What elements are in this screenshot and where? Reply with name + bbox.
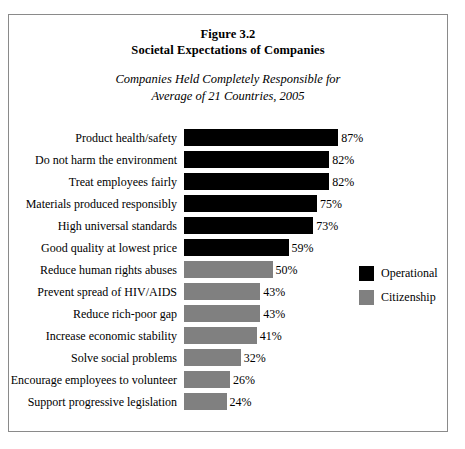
bar-value-label: 82% (329, 149, 354, 171)
bar-row: Do not harm the environment82% (9, 149, 447, 171)
bar-operational (184, 173, 329, 190)
bar-citizenship (184, 283, 260, 300)
bar-track: 41% (184, 325, 447, 347)
figure-title-block: Figure 3.2 Societal Expectations of Comp… (9, 26, 447, 58)
bar-value-label: 73% (313, 215, 338, 237)
bar-row: Solve social problems32% (9, 347, 447, 369)
bar-category-label: Do not harm the environment (9, 149, 177, 171)
bar-operational (184, 129, 338, 146)
figure-frame: Figure 3.2 Societal Expectations of Comp… (8, 14, 448, 432)
bar-value-label: 32% (241, 347, 266, 369)
legend-label: Operational (381, 266, 438, 281)
legend-item-citizenship: Citizenship (359, 285, 449, 309)
bar-operational (184, 151, 329, 168)
bar-operational (184, 217, 313, 234)
bar-row: Support progressive legislation24% (9, 391, 447, 413)
bar-citizenship (184, 327, 257, 344)
bar-citizenship (184, 393, 227, 410)
bar-value-label: 82% (329, 171, 354, 193)
figure-subtitle-block: Companies Held Completely Responsible fo… (9, 71, 447, 104)
bar-value-label: 24% (227, 391, 252, 413)
bar-citizenship (184, 305, 260, 322)
bar-category-label: High universal standards (9, 215, 177, 237)
bar-track: 26% (184, 369, 447, 391)
legend-swatch-citizenship (359, 290, 374, 305)
bar-track: 32% (184, 347, 447, 369)
bar-row: Increase economic stability41% (9, 325, 447, 347)
bar-category-label: Increase economic stability (9, 325, 177, 347)
bar-category-label: Support progressive legislation (9, 391, 177, 413)
legend-item-operational: Operational (359, 261, 449, 285)
bar-category-label: Treat employees fairly (9, 171, 177, 193)
bar-category-label: Solve social problems (9, 347, 177, 369)
bar-citizenship (184, 371, 230, 388)
bar-track: 75% (184, 193, 447, 215)
bar-value-label: 26% (230, 369, 255, 391)
bar-track: 82% (184, 171, 447, 193)
figure-title: Societal Expectations of Companies (9, 42, 447, 58)
bar-track: 24% (184, 391, 447, 413)
bar-track: 82% (184, 149, 447, 171)
bar-operational (184, 195, 317, 212)
bar-value-label: 59% (289, 237, 314, 259)
bar-citizenship (184, 349, 241, 366)
bar-category-label: Materials produced responsibly (9, 193, 177, 215)
bar-value-label: 87% (338, 127, 363, 149)
bar-track: 87% (184, 127, 447, 149)
bar-category-label: Reduce rich-poor gap (9, 303, 177, 325)
bar-row: Encourage employees to volunteer26% (9, 369, 447, 391)
bar-category-label: Product health/safety (9, 127, 177, 149)
legend-label: Citizenship (381, 290, 436, 305)
bar-value-label: 43% (260, 303, 285, 325)
bar-citizenship (184, 261, 273, 278)
legend-swatch-operational (359, 266, 374, 281)
figure-number: Figure 3.2 (9, 26, 447, 42)
bar-row: High universal standards73% (9, 215, 447, 237)
bar-value-label: 43% (260, 281, 285, 303)
bar-value-label: 50% (273, 259, 298, 281)
bar-track: 73% (184, 215, 447, 237)
bar-category-label: Encourage employees to volunteer (9, 369, 177, 391)
bar-row: Product health/safety87% (9, 127, 447, 149)
bar-row: Good quality at lowest price59% (9, 237, 447, 259)
bar-value-label: 75% (317, 193, 342, 215)
bar-row: Materials produced responsibly75% (9, 193, 447, 215)
figure-subtitle-line-2: Average of 21 Countries, 2005 (9, 88, 447, 105)
bar-category-label: Prevent spread of HIV/AIDS (9, 281, 177, 303)
bar-row: Treat employees fairly82% (9, 171, 447, 193)
bar-track: 59% (184, 237, 447, 259)
bar-category-label: Good quality at lowest price (9, 237, 177, 259)
chart-legend: OperationalCitizenship (359, 261, 449, 309)
bar-value-label: 41% (257, 325, 282, 347)
figure-subtitle-line-1: Companies Held Completely Responsible fo… (9, 71, 447, 88)
bar-operational (184, 239, 289, 256)
bar-category-label: Reduce human rights abuses (9, 259, 177, 281)
